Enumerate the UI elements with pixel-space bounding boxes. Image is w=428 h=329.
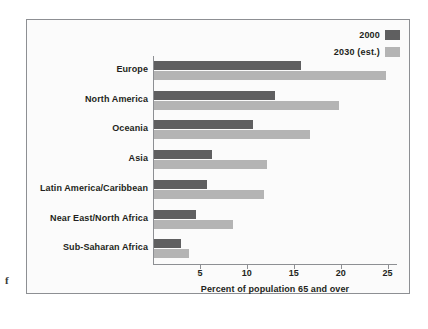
page-background: f 2000 2030 (est.) EuropeNorth AmericaOc… <box>0 0 428 329</box>
bar-series-2000 <box>154 239 181 248</box>
bar-series-2000 <box>154 91 275 100</box>
x-tick-label: 5 <box>197 268 202 278</box>
x-tick-label: 15 <box>289 268 299 278</box>
legend-swatch-icon <box>385 30 400 40</box>
bar-series-2000 <box>154 61 301 70</box>
bar-series-2030 <box>154 249 189 258</box>
category-label: Near East/North Africa <box>50 211 148 225</box>
legend-item-label: 2030 (est.) <box>334 47 380 57</box>
category-label: Asia <box>129 151 148 165</box>
chart-figure: 2000 2030 (est.) EuropeNorth AmericaOcea… <box>26 19 410 294</box>
bar-group: Near East/North Africa <box>154 208 397 238</box>
bar-group: Europe <box>154 59 397 89</box>
plot-area: EuropeNorth AmericaOceaniaAsiaLatin Amer… <box>153 56 397 264</box>
bar-series-2000 <box>154 210 196 219</box>
legend-item-label: 2000 <box>359 30 380 40</box>
legend-swatch-icon <box>385 47 400 57</box>
bar-group: Latin America/Caribbean <box>154 178 397 208</box>
x-tick-label: 25 <box>383 268 393 278</box>
category-label: Sub-Saharan Africa <box>63 240 148 254</box>
bar-series-2000 <box>154 180 207 189</box>
x-axis-title: Percent of population 65 and over <box>153 284 397 294</box>
category-label: North America <box>85 92 148 106</box>
bar-series-2030 <box>154 130 310 139</box>
bar-group: Oceania <box>154 118 397 148</box>
bar-series-2030 <box>154 71 386 80</box>
bar-series-2030 <box>154 190 264 199</box>
category-label: Latin America/Caribbean <box>40 181 148 195</box>
margin-glyph: f <box>5 275 9 286</box>
bar-series-2030 <box>154 160 267 169</box>
bar-series-2000 <box>154 150 212 159</box>
bar-series-2030 <box>154 101 339 110</box>
bar-group: Sub-Saharan Africa <box>154 237 397 267</box>
category-label: Europe <box>116 62 148 76</box>
bar-series-2030 <box>154 220 233 229</box>
x-tick-label: 20 <box>336 268 346 278</box>
bar-series-2000 <box>154 120 253 129</box>
category-label: Oceania <box>112 121 148 135</box>
bar-group: Asia <box>154 148 397 178</box>
bar-group: North America <box>154 89 397 119</box>
x-tick-label: 10 <box>242 268 252 278</box>
legend-item-2000: 2000 <box>334 27 400 42</box>
